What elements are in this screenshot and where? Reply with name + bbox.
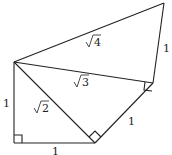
label-ad: 3 xyxy=(74,75,89,89)
right-angle-mark-b xyxy=(14,135,22,143)
label-ad-radicand: 3 xyxy=(82,76,89,89)
spiral-diagram: 1 1 1 1 2 3 4 xyxy=(0,0,172,155)
segment-ae xyxy=(14,3,164,62)
label-de: 1 xyxy=(163,42,170,55)
label-ae: 4 xyxy=(86,35,101,49)
right-angle-mark-d xyxy=(144,82,152,91)
right-angle-mark-c xyxy=(89,131,101,137)
label-ac: 2 xyxy=(34,101,49,115)
label-ab: 1 xyxy=(3,97,10,110)
segment-ac xyxy=(14,62,95,143)
label-ae-radicand: 4 xyxy=(94,36,101,49)
label-ac-radicand: 2 xyxy=(42,102,49,115)
label-bc: 1 xyxy=(52,145,59,155)
segment-cd xyxy=(95,83,153,143)
label-cd: 1 xyxy=(128,115,135,128)
